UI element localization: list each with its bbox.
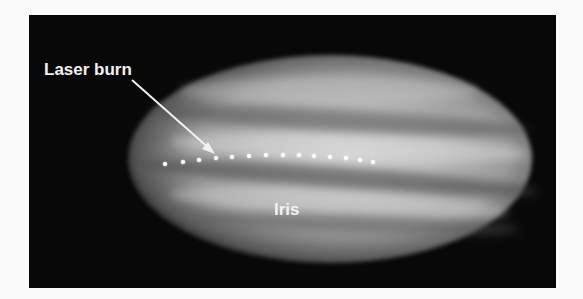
arrow-icon (29, 15, 556, 288)
photo-panel: Laser burn Iris (29, 15, 556, 288)
iris-label: Iris (274, 201, 300, 218)
laser-burn-label: Laser burn (44, 61, 132, 78)
